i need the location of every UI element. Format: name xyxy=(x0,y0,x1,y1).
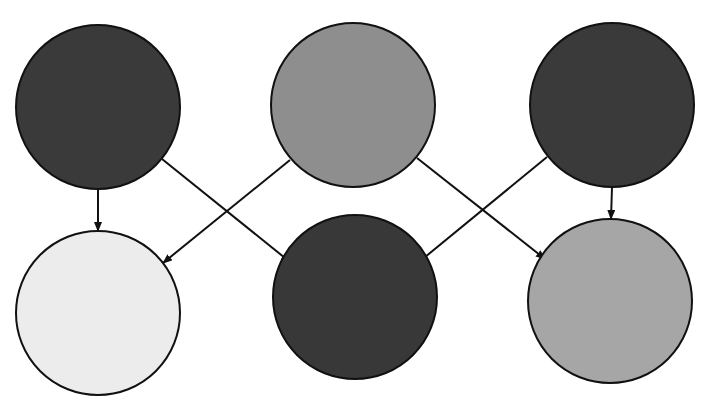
nodes-group xyxy=(16,23,694,395)
node-bottom-left xyxy=(16,231,180,395)
arrow-top-right-to-bottom-right xyxy=(611,187,612,219)
node-diagram xyxy=(0,0,712,410)
node-top-right xyxy=(530,23,694,187)
node-bottom-middle xyxy=(273,215,437,379)
node-top-middle xyxy=(271,23,435,187)
node-bottom-right xyxy=(528,219,692,383)
node-top-left xyxy=(16,25,180,189)
